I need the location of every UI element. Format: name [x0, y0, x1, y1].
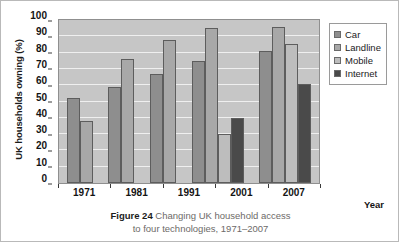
- y-axis-tick-label: 10: [36, 156, 47, 167]
- bar-mobile-2001[interactable]: [218, 134, 231, 183]
- y-axis-tick-label: 50: [36, 91, 47, 102]
- y-axis-tick-mark: [48, 134, 52, 135]
- plot-area: [58, 19, 320, 184]
- bar-groups: [59, 20, 319, 183]
- x-axis-tick-mark: [320, 184, 321, 188]
- bar-internet-2007[interactable]: [298, 84, 311, 183]
- figure-container: UK households owning (%) 010203040506070…: [0, 0, 399, 242]
- bar-car-1991[interactable]: [150, 74, 163, 183]
- legend-item-car[interactable]: Car: [334, 28, 381, 41]
- legend-item-label: Internet: [345, 68, 377, 79]
- legend-item-mobile[interactable]: Mobile: [334, 54, 381, 67]
- legend-item-label: Mobile: [345, 55, 373, 66]
- caption-figure-number: Figure 24: [110, 210, 152, 221]
- legend-swatch-icon: [334, 31, 341, 38]
- bar-car-1971[interactable]: [67, 98, 80, 183]
- y-axis-tick-label: 60: [36, 75, 47, 86]
- bar-internet-2001[interactable]: [231, 118, 244, 183]
- legend-swatch-icon: [334, 57, 341, 64]
- bar-group-2001: [192, 20, 244, 183]
- bar-landline-2001[interactable]: [205, 28, 218, 183]
- y-axis-tick-label: 70: [36, 58, 47, 69]
- legend-item-label: Landline: [345, 42, 381, 53]
- x-axis-tick-label-2001: 2001: [230, 187, 252, 198]
- bar-landline-1981[interactable]: [121, 59, 134, 183]
- y-axis-tick-mark: [48, 53, 52, 54]
- legend-swatch-icon: [334, 70, 341, 77]
- y-axis-tick-mark: [48, 85, 52, 86]
- legend-item-internet[interactable]: Internet: [334, 67, 381, 80]
- x-axis-tick-label-1981: 1981: [125, 187, 147, 198]
- x-axis-tick-label-1991: 1991: [178, 187, 200, 198]
- y-axis-tick-label: 0: [41, 173, 47, 184]
- legend-item-label: Car: [345, 29, 360, 40]
- y-axis-tick-mark: [48, 118, 52, 119]
- bar-group-1971: [67, 20, 93, 183]
- bar-landline-2007[interactable]: [272, 27, 285, 183]
- bar-group-1981: [108, 20, 134, 183]
- y-axis-tick-mark: [48, 36, 52, 37]
- x-axis-tick-label-1971: 1971: [73, 187, 95, 198]
- y-axis-tick-label: 80: [36, 42, 47, 53]
- y-axis-tick-mark: [48, 102, 52, 103]
- y-axis-tick-label: 20: [36, 140, 47, 151]
- legend-swatch-icon: [334, 44, 341, 51]
- y-axis-tick-mark: [48, 20, 52, 21]
- bar-group-2007: [259, 20, 311, 183]
- bar-landline-1971[interactable]: [80, 121, 93, 183]
- bar-mobile-2007[interactable]: [285, 44, 298, 183]
- y-axis-tick-mark: [48, 69, 52, 70]
- bar-landline-1991[interactable]: [163, 40, 176, 183]
- caption-line-2: to four technologies, 1971–2007: [1, 222, 399, 235]
- y-axis-tick-label: 40: [36, 107, 47, 118]
- bar-car-2001[interactable]: [192, 61, 205, 183]
- figure-caption: Figure 24 Changing UK household access t…: [1, 209, 399, 235]
- x-axis-tick-label-2007: 2007: [283, 187, 305, 198]
- bar-car-1981[interactable]: [108, 87, 121, 183]
- legend-item-landline[interactable]: Landline: [334, 41, 381, 54]
- x-axis-tick-labels: 19711981199120012007: [58, 187, 320, 198]
- y-axis-tick-mark: [48, 167, 52, 168]
- y-axis-tick-mark: [48, 183, 52, 184]
- caption-line-1: Changing UK household access: [153, 210, 291, 221]
- y-axis-tick-label: 90: [36, 26, 47, 37]
- y-axis-tick-label: 30: [36, 124, 47, 135]
- y-axis-tick-label: 100: [30, 10, 47, 21]
- y-axis-tick-labels: 0102030405060708090100: [21, 19, 52, 184]
- chart-legend: CarLandlineMobileInternet: [329, 23, 387, 85]
- y-axis-tick-mark: [48, 150, 52, 151]
- bar-car-2007[interactable]: [259, 51, 272, 183]
- bar-group-1991: [150, 20, 176, 183]
